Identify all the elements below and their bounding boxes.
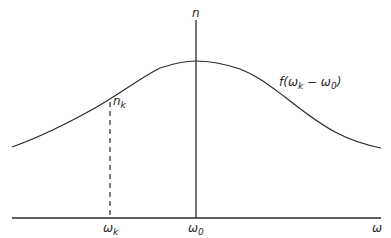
omega-k-label: ωk: [103, 221, 119, 237]
x-axis-label: ω: [372, 221, 382, 235]
curve-label: f(ωk − ω0): [279, 75, 341, 91]
distribution-diagram: n nk f(ωk − ω0) ωk ω0 ω: [0, 0, 391, 238]
point-label-nk: nk: [113, 94, 127, 110]
omega-0-label: ω0: [188, 221, 204, 237]
y-axis-label: n: [192, 6, 200, 20]
